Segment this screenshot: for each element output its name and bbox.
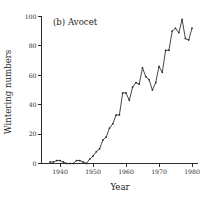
avocet-series-line <box>50 19 192 163</box>
data-point-1951 <box>96 151 98 153</box>
data-point-1970 <box>158 66 160 68</box>
data-point-1948 <box>86 163 88 165</box>
data-point-1976 <box>178 32 180 33</box>
data-point-1971 <box>162 72 164 74</box>
data-point-1953 <box>102 139 104 141</box>
x-tick-label-1940: 1940 <box>52 168 68 175</box>
data-point-1972 <box>165 50 167 52</box>
panel-title: (b) Avocet <box>53 17 98 27</box>
data-point-1956 <box>112 123 114 125</box>
data-point-1937 <box>49 161 51 163</box>
data-point-1964 <box>138 83 140 85</box>
data-point-1973 <box>168 50 170 52</box>
data-point-1939 <box>56 160 58 162</box>
y-tick-label-60: 60 <box>29 72 37 79</box>
data-point-1943 <box>69 163 71 165</box>
y-tick-label-20: 20 <box>29 130 37 137</box>
data-point-1966 <box>145 76 147 78</box>
y-axis-ticks: 020406080100 <box>25 13 42 167</box>
y-tick-label-0: 0 <box>33 160 37 167</box>
data-point-1965 <box>142 67 144 69</box>
data-point-1942 <box>66 163 68 165</box>
avocet-series-markers <box>49 19 192 165</box>
data-point-1940 <box>59 160 61 162</box>
data-point-1968 <box>152 89 154 91</box>
data-point-1960 <box>125 92 127 94</box>
data-point-1945 <box>76 160 78 162</box>
data-point-1947 <box>82 161 84 163</box>
data-point-1955 <box>109 127 111 129</box>
data-point-1975 <box>175 28 177 30</box>
data-point-1980 <box>191 28 193 30</box>
data-point-1961 <box>129 100 131 102</box>
data-point-1950 <box>92 155 94 157</box>
x-tick-label-1950: 1950 <box>85 168 101 175</box>
data-point-1959 <box>122 92 124 94</box>
data-point-1963 <box>135 82 137 84</box>
x-axis-title: Year <box>109 182 130 192</box>
data-point-1977 <box>181 19 183 21</box>
y-tick-label-40: 40 <box>29 101 37 108</box>
data-point-1969 <box>155 82 157 84</box>
x-axis-ticks: 19401950196019701980 <box>52 164 200 176</box>
x-tick-label-1960: 1960 <box>118 168 134 175</box>
x-tick-label-1970: 1970 <box>151 168 167 175</box>
chart-page: 020406080100 19401950196019701980 (b) Av… <box>0 0 204 200</box>
data-point-1954 <box>105 136 107 138</box>
data-point-1962 <box>132 86 134 88</box>
data-point-1952 <box>99 148 101 150</box>
data-point-1946 <box>79 160 81 162</box>
data-point-1938 <box>53 161 55 163</box>
y-axis-title: Wintering numbers <box>3 50 13 134</box>
data-point-1978 <box>185 38 187 40</box>
data-point-1949 <box>89 158 91 160</box>
x-tick-label-1980: 1980 <box>184 168 200 175</box>
data-point-1979 <box>188 39 190 41</box>
data-point-1941 <box>63 161 65 163</box>
avocet-wintering-numbers-chart: 020406080100 19401950196019701980 (b) Av… <box>0 0 204 200</box>
data-point-1944 <box>72 163 74 165</box>
y-tick-label-80: 80 <box>29 42 37 49</box>
data-point-1967 <box>148 79 150 81</box>
data-point-1958 <box>119 114 121 116</box>
data-point-1957 <box>115 114 117 116</box>
data-point-1974 <box>171 30 173 32</box>
y-tick-label-100: 100 <box>25 13 37 20</box>
